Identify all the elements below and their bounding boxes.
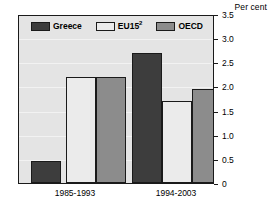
legend-label-eu15: EU152 <box>118 22 143 31</box>
bar-oecd-1994-2003 <box>192 89 214 183</box>
y-tick-1.0 <box>214 136 218 137</box>
legend-label-oecd: OECD <box>178 22 203 31</box>
plot-area: Greece EU152 OECD <box>18 15 214 184</box>
gridline-3.0 <box>19 39 213 40</box>
legend-item-greece[interactable]: Greece <box>31 22 82 31</box>
y-tick-1.5 <box>214 112 218 113</box>
y-label-1.0: 1.0 <box>222 132 234 141</box>
legend-swatch-greece <box>31 22 50 31</box>
x-label-1985-1993: 1985-1993 <box>30 189 120 198</box>
legend-label-eu15-footnote: 2 <box>139 20 142 26</box>
legend-item-eu15[interactable]: EU152 <box>96 22 143 31</box>
y-label-2.5: 2.5 <box>222 59 234 68</box>
legend-swatch-oecd <box>156 22 175 31</box>
gridline-2.5 <box>19 63 213 64</box>
legend-item-oecd[interactable]: OECD <box>156 22 203 31</box>
y-label-0: 0 <box>222 180 227 189</box>
y-label-1.5: 1.5 <box>222 108 234 117</box>
y-label-2.0: 2.0 <box>222 83 234 92</box>
bar-greece-1994-2003 <box>132 53 162 183</box>
y-tick-0 <box>214 184 218 185</box>
y-tick-3.0 <box>214 39 218 40</box>
chart-legend: Greece EU152 OECD <box>31 22 203 31</box>
bar-eu15-1994-2003 <box>162 101 192 183</box>
legend-label-eu15-text: EU15 <box>118 21 139 31</box>
legend-swatch-eu15 <box>96 22 115 31</box>
y-label-0.5: 0.5 <box>222 156 234 165</box>
y-label-3.5: 3.5 <box>222 11 234 20</box>
y-tick-2.5 <box>214 63 218 64</box>
x-label-1994-2003: 1994-2003 <box>131 189 221 198</box>
bar-eu15-1985-1993 <box>66 77 96 183</box>
y-label-3.0: 3.0 <box>222 35 234 44</box>
y-tick-3.5 <box>214 15 218 16</box>
y-axis-unit-label: Per cent <box>235 2 267 12</box>
bar-chart-figure: Per cent Greece EU152 <box>0 0 271 216</box>
bar-greece-1985-1993 <box>31 161 61 183</box>
bar-oecd-1985-1993 <box>96 77 126 183</box>
legend-label-greece: Greece <box>53 22 82 31</box>
y-tick-0.5 <box>214 160 218 161</box>
y-tick-2.0 <box>214 87 218 88</box>
